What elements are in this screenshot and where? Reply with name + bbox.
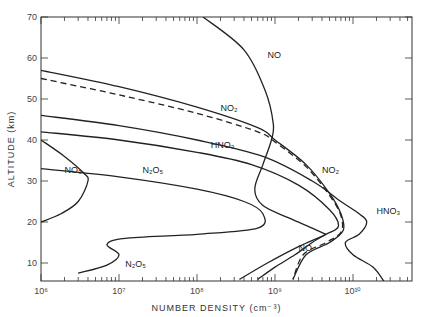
curve-label: NO₃ [64, 165, 82, 175]
x-tick-label: 10⁸ [190, 286, 204, 296]
x-tick-label: 10⁷ [112, 286, 125, 296]
series-n2o5-low- [41, 169, 265, 274]
curve-label: HNO₃ [211, 140, 235, 150]
y-tick-label: 30 [27, 176, 37, 186]
curve-label: N₂O₅ [125, 259, 146, 269]
curve-label: HNO₃ [376, 206, 400, 216]
curve-label: NO [298, 243, 312, 253]
chart: 10⁶10⁷10⁸10⁹10¹⁰10203040506070NUMBER DEN… [0, 0, 423, 317]
series-no2-dashed- [41, 79, 343, 280]
series-no [203, 17, 326, 234]
x-tick-label: 10⁹ [268, 286, 282, 296]
y-tick-label: 70 [27, 12, 37, 22]
y-axis-title: ALTITUDE (km) [6, 111, 16, 187]
curve-label: NO₂ [220, 103, 238, 113]
y-tick-label: 40 [27, 135, 37, 145]
y-tick-label: 50 [27, 94, 37, 104]
curve-label: N₂O₅ [142, 165, 163, 175]
axes: 10⁶10⁷10⁸10⁹10¹⁰10203040506070NUMBER DEN… [6, 12, 412, 313]
curve-label: NO [267, 50, 281, 60]
y-tick-label: 10 [27, 258, 37, 268]
x-axis-title: NUMBER DENSITY (cm⁻³) [152, 303, 282, 313]
y-tick-label: 20 [27, 217, 37, 227]
y-tick-label: 60 [27, 53, 37, 63]
curve-label: NO₂ [322, 165, 340, 175]
x-tick-label: 10⁶ [34, 286, 48, 296]
series-no3 [41, 140, 88, 222]
x-tick-label: 10¹⁰ [344, 286, 361, 296]
series-no-low- [258, 234, 326, 279]
